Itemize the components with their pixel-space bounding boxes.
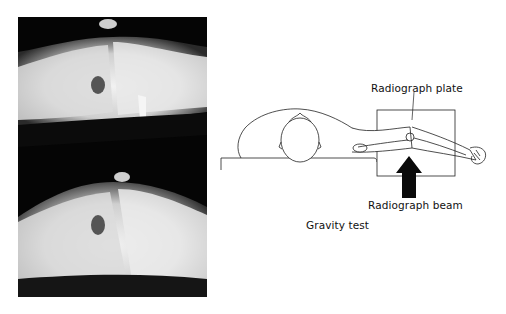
gravity-test-caption: Gravity test <box>306 219 369 231</box>
radiograph-images <box>18 17 207 297</box>
radiograph-beam-label: Radiograph beam <box>368 199 463 211</box>
radiograph-plate-label: Radiograph plate <box>371 82 463 94</box>
head-outline <box>281 118 319 162</box>
radiograph-panel <box>18 17 207 297</box>
